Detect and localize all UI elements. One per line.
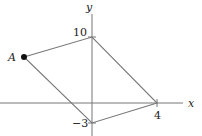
point-a-dot [21,54,27,60]
y-tick-neg3: −3 [72,117,88,130]
tick-marks [88,37,157,123]
y-tick-10: 10 [73,26,87,39]
y-axis-label: y [85,1,93,14]
parallelogram [24,37,157,123]
x-tick-4: 4 [154,109,161,122]
point-a-label: A [7,51,16,64]
coordinate-diagram: A y x 10 −3 4 [0,0,202,136]
x-axis-label: x [188,97,195,110]
